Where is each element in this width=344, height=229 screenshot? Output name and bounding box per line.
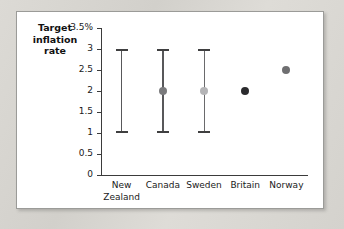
plot-area xyxy=(101,28,307,175)
x-axis-line xyxy=(101,175,308,176)
error-bar-cap-lower xyxy=(198,131,210,133)
y-tick-mark xyxy=(97,133,101,134)
x-tick-label-line-2: Zealand xyxy=(90,192,154,204)
error-bar-cap-upper xyxy=(157,49,169,51)
x-tick-label-line-1: Norway xyxy=(254,180,318,192)
error-bar-cap-upper xyxy=(198,49,210,51)
y-tick-label: 3 xyxy=(87,43,93,53)
error-bar-cap-upper xyxy=(116,49,128,51)
y-tick-label: 1 xyxy=(87,127,93,137)
data-point-marker xyxy=(241,87,249,95)
data-point-marker xyxy=(200,87,208,95)
y-tick-label: 2 xyxy=(87,85,93,95)
y-axis-title-line-3: rate xyxy=(19,45,91,57)
error-bar-cap-lower xyxy=(157,131,169,133)
y-tick-label: 3.5% xyxy=(70,22,93,32)
y-tick-label: 0 xyxy=(87,169,93,179)
y-tick-mark xyxy=(97,49,101,50)
y-tick-mark xyxy=(97,70,101,71)
data-point-marker xyxy=(282,66,290,74)
y-tick-mark xyxy=(97,112,101,113)
error-bar-line xyxy=(121,49,122,133)
y-tick-mark xyxy=(97,28,101,29)
y-tick-label: 1.5 xyxy=(79,106,93,116)
y-tick-mark xyxy=(97,175,101,176)
y-axis-title-line-2: inflation xyxy=(19,34,91,46)
chart-panel: Targetinflationrate 3.5%32.521.510.50 Ne… xyxy=(16,11,324,209)
error-bar-cap-lower xyxy=(116,131,128,133)
y-tick-label: 2.5 xyxy=(79,64,93,74)
y-tick-label: 0.5 xyxy=(79,148,93,158)
x-tick-label: Norway xyxy=(254,180,318,192)
y-tick-mark xyxy=(97,91,101,92)
data-point-marker xyxy=(159,87,167,95)
y-tick-mark xyxy=(97,154,101,155)
